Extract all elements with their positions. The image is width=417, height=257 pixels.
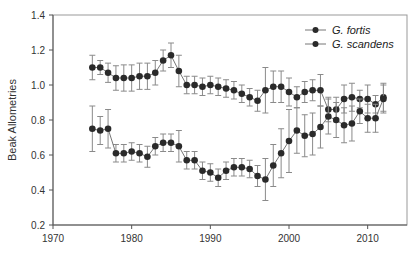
data-point xyxy=(364,115,371,122)
data-point xyxy=(294,94,301,101)
data-point xyxy=(128,75,135,82)
data-point xyxy=(121,150,128,157)
x-tick-label: 1970 xyxy=(42,233,65,244)
data-point xyxy=(239,90,246,97)
data-point xyxy=(309,87,316,94)
data-point xyxy=(136,150,143,157)
y-tick-label: 0.2 xyxy=(31,220,45,231)
data-point xyxy=(207,169,214,176)
x-tick-label: 1990 xyxy=(199,233,222,244)
series-line xyxy=(92,99,383,180)
data-point xyxy=(168,52,175,59)
series-line xyxy=(92,55,383,109)
data-series xyxy=(89,43,387,201)
legend-item-scandens: G. scandens xyxy=(305,38,394,50)
data-point xyxy=(349,94,356,101)
data-point xyxy=(105,125,112,132)
data-point xyxy=(262,87,269,94)
data-point xyxy=(286,138,293,145)
data-point xyxy=(341,96,348,103)
data-point xyxy=(231,164,238,171)
y-axis: 0.20.40.60.81.01.21.4 xyxy=(31,10,53,231)
data-point xyxy=(223,85,230,92)
data-point xyxy=(121,75,128,82)
data-point xyxy=(176,68,183,75)
data-point xyxy=(231,87,238,94)
data-point xyxy=(136,73,143,80)
data-point xyxy=(309,131,316,138)
data-point xyxy=(183,82,190,89)
data-point xyxy=(152,69,159,76)
data-point xyxy=(341,122,348,129)
data-point xyxy=(199,83,206,90)
data-point xyxy=(113,150,120,157)
data-point xyxy=(301,89,308,96)
data-point xyxy=(333,117,340,124)
y-tick-label: 0.8 xyxy=(31,115,45,126)
data-point xyxy=(364,96,371,103)
x-tick-label: 2000 xyxy=(278,233,301,244)
y-tick-label: 0.4 xyxy=(31,185,45,196)
data-point xyxy=(254,173,261,180)
data-point xyxy=(89,125,96,132)
legend-marker-icon xyxy=(313,41,319,47)
data-point xyxy=(97,127,104,134)
data-point xyxy=(207,82,214,89)
legend-item-fortis: G. fortis xyxy=(305,24,371,36)
data-point xyxy=(215,83,222,90)
data-point xyxy=(191,157,198,164)
series-fortis xyxy=(89,43,387,122)
chart: 0.20.40.60.81.01.21.4 197019801990200020… xyxy=(0,0,417,257)
data-point xyxy=(105,69,112,76)
data-point xyxy=(349,120,356,127)
legend-label-fortis: G. fortis xyxy=(332,24,371,36)
data-point xyxy=(160,57,167,64)
y-tick-label: 1.2 xyxy=(31,45,45,56)
data-point xyxy=(215,174,222,181)
y-tick-label: 1.4 xyxy=(31,10,45,21)
y-axis-title: Beak Allometries xyxy=(6,79,18,161)
data-point xyxy=(317,87,324,94)
data-point xyxy=(89,64,96,71)
x-tick-label: 2010 xyxy=(357,233,380,244)
data-point xyxy=(380,96,387,103)
data-point xyxy=(325,113,332,120)
data-point xyxy=(176,143,183,150)
data-point xyxy=(152,143,159,150)
data-point xyxy=(128,148,135,155)
data-point xyxy=(223,167,230,174)
data-point xyxy=(144,153,151,160)
data-point xyxy=(317,124,324,131)
data-point xyxy=(144,73,151,80)
x-axis: 19701980199020002010 xyxy=(42,225,379,244)
data-point xyxy=(270,83,277,90)
data-point xyxy=(301,132,308,139)
data-point xyxy=(286,89,293,96)
data-point xyxy=(97,64,104,71)
legend: G. fortis G. scandens xyxy=(305,24,394,50)
data-point xyxy=(113,75,120,82)
data-point xyxy=(270,162,277,169)
data-point xyxy=(199,167,206,174)
data-point xyxy=(372,115,379,122)
data-point xyxy=(278,150,285,157)
data-point xyxy=(278,83,285,90)
data-point xyxy=(183,157,190,164)
legend-marker-icon xyxy=(313,27,319,33)
data-point xyxy=(262,176,269,183)
data-point xyxy=(191,82,198,89)
data-point xyxy=(160,139,167,146)
data-point xyxy=(294,127,301,134)
data-point xyxy=(246,94,253,101)
y-tick-label: 1.0 xyxy=(31,80,45,91)
data-point xyxy=(168,139,175,146)
data-point xyxy=(246,166,253,173)
data-point xyxy=(239,164,246,171)
data-point xyxy=(357,108,364,115)
legend-label-scandens: G. scandens xyxy=(332,38,394,50)
x-tick-label: 1980 xyxy=(121,233,144,244)
data-point xyxy=(254,97,261,104)
y-tick-label: 0.6 xyxy=(31,150,45,161)
